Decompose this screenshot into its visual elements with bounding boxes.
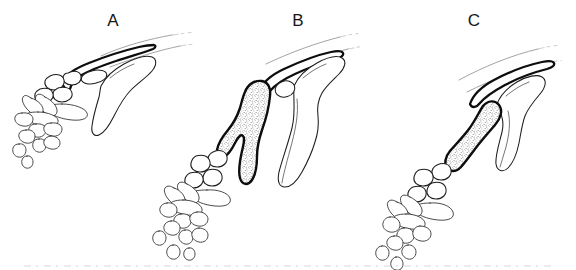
carpal-b-1 [208,151,227,167]
phalanx-b-1 [160,203,177,217]
panel-label-b: B [292,11,303,30]
phalanx-c-7 [391,257,403,270]
panel-label-a: A [107,11,119,30]
panel-label-c: C [468,11,480,30]
phalanx-b-6 [192,228,208,242]
carpal-a-1 [63,71,81,85]
figure-container: A [0,0,576,270]
carpal-c-2 [414,169,433,186]
carpal-c-1 [432,164,451,180]
phalanx-c-4 [387,236,403,250]
phalanx-a-1 [15,113,33,126]
phalanx-c-6 [376,246,389,260]
figure-background [0,0,576,270]
phalanx-c-5 [402,245,416,259]
phalanx-a-4 [19,130,35,143]
anatomical-figure: A [0,0,576,270]
phalanx-c-3 [413,226,431,241]
phalanx-c-1 [383,217,400,232]
phalanx-b-3 [190,212,208,226]
phalanx-b-7 [153,231,166,245]
phalanx-b-4 [164,221,180,235]
carpal-a-3 [53,87,72,102]
phalanx-a-7 [44,136,60,149]
carpal-c-3 [427,182,446,199]
phalanx-a-3 [44,123,62,136]
phalanx-a-6 [13,144,26,157]
carpal-b-3 [203,169,222,186]
phalanx-a-8 [22,156,33,168]
phalanx-b-8 [167,245,180,259]
phalanx-b-5 [179,230,193,244]
carpal-b-2 [191,155,210,172]
phalanx-b-9 [184,248,195,260]
